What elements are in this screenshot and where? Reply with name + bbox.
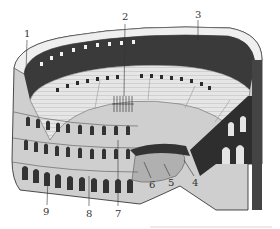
outer-wall-section [252, 60, 262, 210]
label-4: 4 [192, 178, 198, 188]
label-8: 8 [86, 209, 92, 219]
label-2: 2 [122, 12, 128, 22]
label-6: 6 [149, 180, 155, 190]
label-5: 5 [168, 178, 174, 188]
label-3: 3 [195, 10, 201, 20]
colosseum-diagram: 1 2 3 4 5 6 7 8 9 [0, 0, 280, 229]
label-9: 9 [43, 207, 49, 217]
label-7: 7 [115, 209, 121, 219]
label-1: 1 [24, 29, 30, 39]
colosseum-illustration [0, 0, 280, 229]
